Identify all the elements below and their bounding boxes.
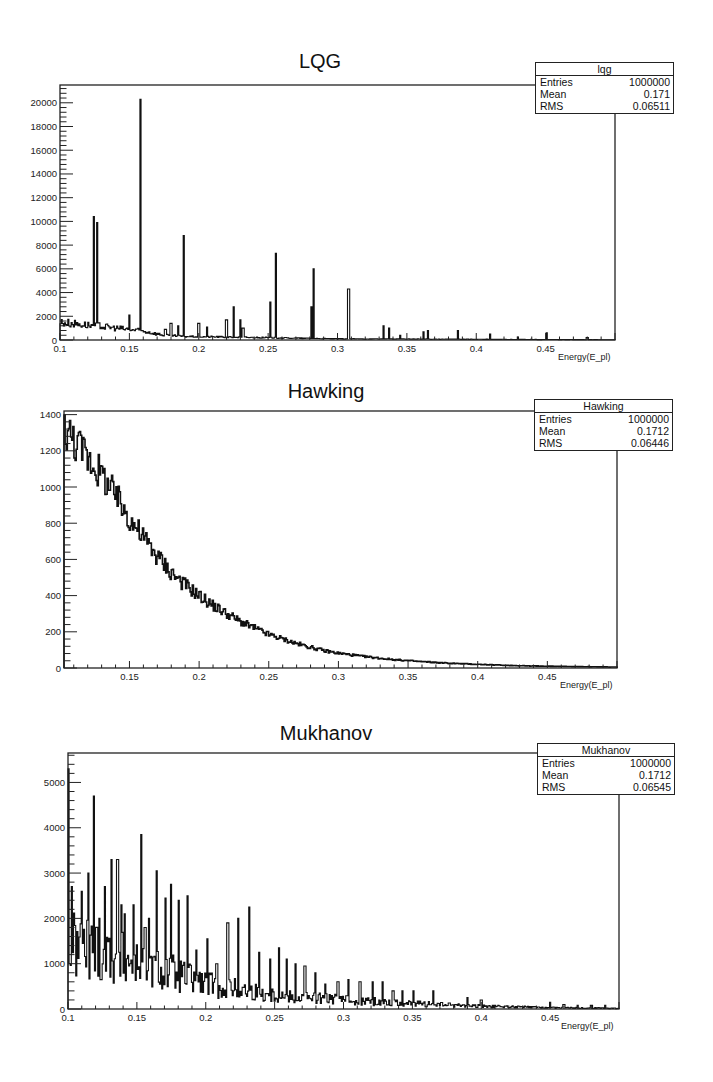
stats-rms-label: RMS	[542, 781, 565, 793]
stats-entries-value: 1000000	[630, 757, 671, 769]
y-tick-label: 0	[60, 1004, 65, 1015]
x-tick-label: 0.3	[337, 1012, 350, 1023]
stats-mean-label: Mean	[542, 769, 568, 781]
stats-box-title: Mukhanov	[538, 744, 674, 757]
mukhanov-histogram: 0.10.150.20.250.30.350.40.45010002000300…	[0, 0, 713, 1082]
stats-rms-value: 0.06545	[633, 781, 671, 793]
x-tick-label: 0.2	[199, 1012, 212, 1023]
y-tick-label: 5000	[44, 777, 65, 788]
stats-entries-label: Entries	[542, 757, 575, 769]
x-axis-label: Energy(E_pl)	[561, 1021, 614, 1031]
x-tick-label: 0.4	[475, 1012, 488, 1023]
stats-box: Mukhanov Entries1000000 Mean0.1712 RMS0.…	[537, 743, 675, 795]
histogram-line	[68, 769, 619, 1009]
x-tick-label: 0.45	[541, 1012, 560, 1023]
stats-mean-value: 0.1712	[639, 769, 671, 781]
x-tick-label: 0.15	[128, 1012, 147, 1023]
x-tick-label: 0.35	[403, 1012, 422, 1023]
y-tick-label: 4000	[44, 822, 65, 833]
mukhanov-panel: Mukhanov 0.10.150.20.250.30.350.40.45010…	[0, 0, 713, 1082]
y-tick-label: 2000	[44, 913, 65, 924]
y-tick-label: 3000	[44, 868, 65, 879]
x-tick-label: 0.25	[265, 1012, 284, 1023]
y-tick-label: 1000	[44, 958, 65, 969]
